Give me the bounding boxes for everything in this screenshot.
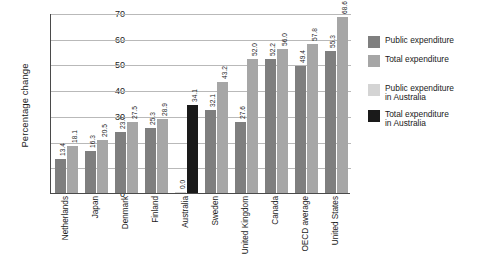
bar-value-label: 0.0 (179, 180, 186, 189)
bar-value-label: 27.5 (131, 106, 138, 119)
plot-area: 13.418.116.320.523.727.525.328.90.034.13… (50, 14, 350, 194)
x-axis-label: Denmark (121, 196, 130, 229)
x-axis-label: United Kingdom (241, 196, 250, 254)
x-axis-label-cell: Japan (80, 196, 110, 274)
bar-group: 23.727.5 (111, 13, 141, 193)
x-axis-label-cell: Finland (140, 196, 170, 274)
bar-value-label: 68.6 (341, 1, 348, 14)
x-axis-label: Australia (181, 196, 190, 228)
legend-item[interactable]: Total expenditurein Australia (368, 110, 478, 129)
legend-item[interactable]: Public expenditure (368, 36, 478, 48)
bar-value-label: 34.1 (191, 89, 198, 102)
bar-group: 55.368.6 (321, 13, 351, 193)
bar-value-label: 49.4 (299, 50, 306, 63)
bar[interactable]: 13.4 (55, 159, 66, 193)
bar[interactable]: 52.2 (265, 59, 276, 193)
x-axis-label: OECD average (301, 196, 310, 252)
x-axis-label-cell: OECD average (290, 196, 320, 274)
bar-value-label: 57.8 (311, 29, 318, 42)
legend-item-label: Public expenditurein Australia (385, 84, 454, 103)
bar[interactable]: 25.3 (145, 128, 156, 193)
bar[interactable]: 32.1 (205, 110, 216, 193)
x-axis-label-cell: United Kingdom (230, 196, 260, 274)
x-axis-label-cell: Sweden (200, 196, 230, 274)
bar[interactable]: 27.5 (127, 122, 138, 193)
bar[interactable]: 52.0 (247, 59, 258, 193)
bar-value-label: 56.0 (281, 33, 288, 46)
bar[interactable]: 55.3 (325, 51, 336, 193)
bar-value-label: 13.4 (59, 143, 66, 156)
x-axis-label-cell: Denmark (110, 196, 140, 274)
legend-item-label: Public expenditure (385, 36, 454, 45)
bar[interactable]: 16.3 (85, 151, 96, 193)
bar[interactable]: 56.0 (277, 49, 288, 193)
x-axis-label: Finland (151, 196, 160, 223)
bar[interactable]: 34.1 (187, 105, 198, 193)
public-swatch-icon (368, 36, 380, 48)
bar-group: 25.328.9 (141, 13, 171, 193)
x-axis-label-cell: Canada (260, 196, 290, 274)
bar-value-label: 25.3 (149, 112, 156, 125)
bar-value-label: 52.2 (269, 43, 276, 56)
bar-groups: 13.418.116.320.523.727.525.328.90.034.13… (51, 13, 351, 193)
bar-value-label: 18.1 (71, 131, 78, 144)
legend-item[interactable]: Public expenditurein Australia (368, 84, 478, 103)
bar-value-label: 27.6 (239, 106, 246, 119)
y-axis-title: Percentage change (19, 26, 30, 186)
bar[interactable]: 49.4 (295, 66, 306, 193)
bar-group: 27.652.0 (231, 13, 261, 193)
bar-group: 16.320.5 (81, 13, 111, 193)
bar-group: 49.457.8 (291, 13, 321, 193)
chart-container: Percentage change 706050403020100 13.418… (0, 0, 478, 275)
bar-group: 0.034.1 (171, 13, 201, 193)
x-axis-labels: NetherlandsJapanDenmarkFinlandAustraliaS… (50, 196, 350, 274)
bar[interactable]: 28.9 (157, 119, 168, 193)
bar-group: 52.256.0 (261, 13, 291, 193)
x-axis-label-cell: Netherlands (50, 196, 80, 274)
x-axis-label: Japan (91, 196, 100, 218)
bar[interactable]: 20.5 (97, 140, 108, 193)
legend-item-label: Total expenditure (385, 55, 449, 64)
bar[interactable]: 23.7 (115, 132, 126, 193)
total-swatch-icon (368, 55, 380, 67)
bar[interactable]: 0.0 (175, 192, 186, 193)
bar-value-label: 43.2 (221, 66, 228, 79)
public-australia-swatch-icon (368, 84, 380, 96)
legend-item[interactable]: Total expenditure (368, 55, 478, 67)
x-axis-label: Canada (271, 196, 280, 225)
total-australia-swatch-icon (368, 110, 380, 122)
bar-value-label: 20.5 (101, 124, 108, 137)
bar[interactable]: 68.6 (337, 17, 348, 193)
x-axis-label: Netherlands (61, 196, 70, 240)
bar-value-label: 52.0 (251, 43, 258, 56)
bar[interactable]: 27.6 (235, 122, 246, 193)
x-axis-label-cell: United States (320, 196, 350, 274)
bar-value-label: 28.9 (161, 103, 168, 116)
x-axis-label: Sweden (211, 196, 220, 226)
bar-value-label: 16.3 (89, 135, 96, 148)
bar-value-label: 23.7 (119, 116, 126, 129)
x-axis-label: United States (331, 196, 340, 245)
bar-value-label: 55.3 (329, 35, 336, 48)
legend-item-label: Total expenditurein Australia (385, 110, 449, 129)
bar-value-label: 32.1 (209, 95, 216, 108)
x-axis-label-cell: Australia (170, 196, 200, 274)
bar-group: 32.143.2 (201, 13, 231, 193)
bar-group: 13.418.1 (51, 13, 81, 193)
bar[interactable]: 18.1 (67, 146, 78, 193)
bar[interactable]: 57.8 (307, 44, 318, 193)
bar[interactable]: 43.2 (217, 82, 228, 193)
chart-legend: Public expenditureTotal expenditurePubli… (368, 36, 478, 136)
